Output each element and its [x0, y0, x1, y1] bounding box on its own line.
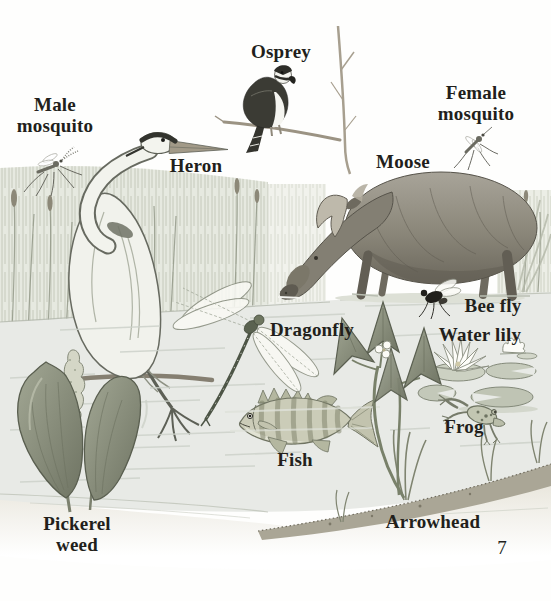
label-moose: Moose — [376, 151, 430, 172]
osprey-illustration — [243, 65, 295, 153]
label-male-mosquito: Male mosquito — [6, 94, 104, 137]
label-dragonfly: Dragonfly — [270, 319, 354, 340]
label-bee-fly: Bee fly — [465, 295, 522, 316]
label-arrowhead: Arrowhead — [386, 511, 480, 532]
label-female-mosquito: Female mosquito — [424, 82, 528, 125]
label-fish: Fish — [277, 449, 313, 470]
label-osprey: Osprey — [251, 41, 311, 62]
label-frog: Frog — [444, 416, 484, 437]
label-pickerel-weed: Pickerel weed — [32, 513, 122, 556]
label-water-lily: Water lily — [439, 324, 521, 345]
page-number: 7 — [497, 537, 507, 559]
female-mosquito-illustration — [454, 127, 498, 170]
label-heron: Heron — [170, 155, 222, 176]
book-page: Male mosquito Osprey Female mosquito Her… — [0, 0, 551, 601]
